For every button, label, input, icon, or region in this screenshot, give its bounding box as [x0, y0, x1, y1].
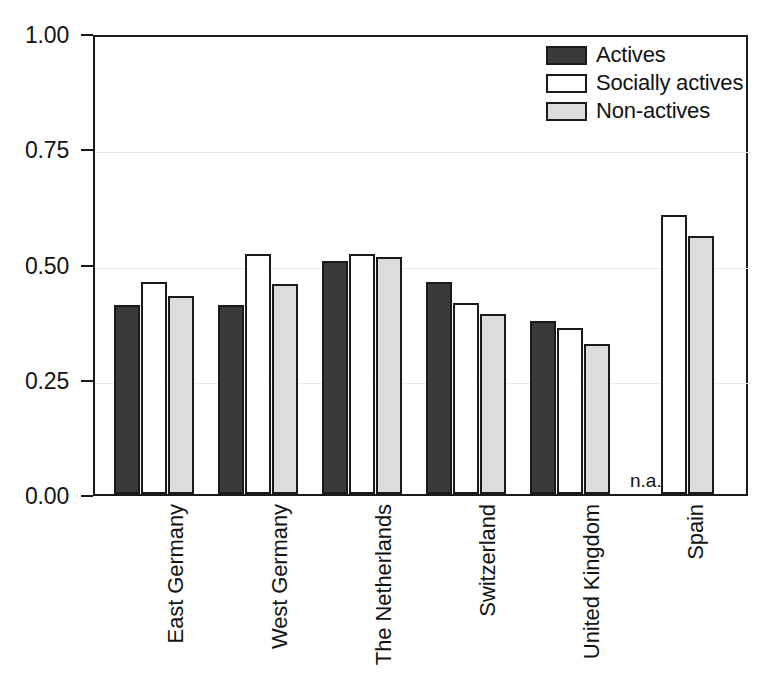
x-axis-category-label: Spain: [683, 504, 709, 560]
legend-label: Non-actives: [596, 98, 710, 124]
bar: [272, 284, 298, 494]
bar: [376, 257, 402, 494]
y-axis-tick-mark: [81, 265, 93, 267]
bar: [584, 344, 610, 494]
bar-chart: 0.000.250.500.751.00 n.a. East GermanyWe…: [0, 0, 772, 686]
legend-label: Actives: [596, 42, 666, 68]
chart-legend: ActivesSocially activesNon-actives: [546, 42, 726, 126]
y-axis-tick-label: 0.25: [25, 368, 69, 395]
bar: [453, 303, 479, 494]
bar: [480, 314, 506, 494]
legend-item: Non-actives: [546, 98, 726, 124]
bar: [557, 328, 583, 494]
bar: [322, 261, 348, 494]
y-axis-tick-mark: [81, 149, 93, 151]
x-axis-category-label: East Germany: [163, 504, 189, 643]
bar: [349, 254, 375, 494]
x-axis-category-label: West Germany: [267, 504, 293, 649]
legend-label: Socially actives: [596, 70, 743, 96]
bar: [245, 254, 271, 494]
legend-item: Socially actives: [546, 70, 726, 96]
x-axis-category-label: The Netherlands: [371, 504, 397, 665]
y-axis-tick-label: 0.50: [25, 253, 69, 280]
not-available-annotation: n.a.: [630, 470, 662, 492]
bar: [141, 282, 167, 494]
y-axis-tick-mark: [81, 380, 93, 382]
gridline: [95, 268, 750, 269]
y-axis-tick-mark: [81, 495, 93, 497]
bar: [218, 305, 244, 494]
legend-swatch-icon: [546, 74, 587, 93]
y-axis-tick-label: 1.00: [25, 22, 69, 49]
x-axis-category-label: United Kingdom: [579, 504, 605, 659]
legend-swatch-icon: [546, 46, 587, 65]
bar: [661, 215, 687, 494]
gridline: [95, 152, 750, 153]
y-axis-tick-mark: [81, 34, 93, 36]
bar: [530, 321, 556, 494]
bar: [168, 296, 194, 494]
bar: [426, 282, 452, 494]
legend-swatch-icon: [546, 102, 587, 121]
y-axis-tick-label: 0.00: [25, 483, 69, 510]
bar: [688, 236, 714, 494]
bar: [114, 305, 140, 494]
y-axis-tick-label: 0.75: [25, 137, 69, 164]
x-axis-category-label: Switzerland: [475, 504, 501, 617]
legend-item: Actives: [546, 42, 726, 68]
